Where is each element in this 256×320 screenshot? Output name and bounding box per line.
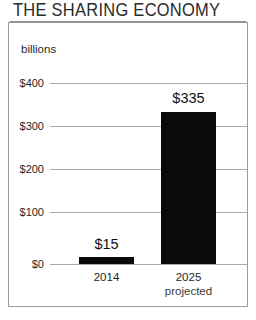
gridline-0 — [57, 264, 247, 265]
tick-300 — [50, 126, 57, 127]
bar-2025[interactable] — [161, 112, 216, 264]
tick-100 — [50, 212, 57, 213]
category-label-2014: 2014 — [94, 271, 120, 283]
category-label-2025: 2025 — [176, 271, 202, 283]
tick-0 — [50, 264, 57, 265]
tick-200 — [50, 169, 57, 170]
ytick-label-200: $200 — [20, 163, 44, 175]
gridline-100 — [57, 212, 247, 213]
gridline-200 — [57, 169, 247, 170]
category-sublabel-2025: projected — [165, 285, 212, 297]
gridline-400 — [57, 83, 247, 84]
chart-panel: billions $400 $300 $200 $100 $0 $15 2014… — [8, 22, 248, 307]
axis-unit-label: billions — [21, 43, 56, 55]
bar-2014[interactable] — [79, 257, 134, 264]
ytick-label-100: $100 — [20, 206, 44, 218]
ytick-label-400: $400 — [20, 77, 44, 89]
bar-value-2025: $335 — [172, 90, 204, 106]
page-title: THE SHARING ECONOMY — [13, 1, 233, 20]
ytick-label-0: $0 — [32, 258, 44, 270]
tick-400 — [50, 83, 57, 84]
bar-value-2014: $15 — [94, 236, 118, 252]
ytick-label-300: $300 — [20, 120, 44, 132]
gridline-300 — [57, 126, 247, 127]
